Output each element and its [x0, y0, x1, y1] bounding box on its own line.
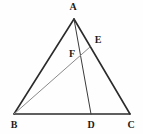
vertex-label-e: E	[95, 35, 102, 45]
cevians	[14, 19, 91, 114]
geometry-figure: A B C D E F	[0, 0, 143, 134]
vertex-label-a: A	[69, 2, 76, 12]
geometry-canvas	[0, 0, 143, 134]
vertex-label-c: C	[127, 120, 134, 130]
segment-cevian-be	[14, 47, 90, 114]
segment-side-ab	[14, 19, 74, 114]
triangle-outline	[14, 19, 130, 114]
vertex-label-b: B	[11, 120, 18, 130]
vertex-label-d: D	[87, 120, 94, 130]
vertex-label-f: F	[69, 49, 75, 59]
